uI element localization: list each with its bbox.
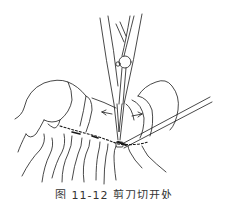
forceps bbox=[100, 14, 142, 140]
surgical-illustration bbox=[0, 0, 228, 199]
arrow-left-icon bbox=[102, 110, 112, 115]
hanging-strands bbox=[18, 134, 166, 184]
figure-caption: 图 11-12 剪刀切开处 bbox=[0, 188, 228, 199]
caption-text: 图 11-12 剪刀切开处 bbox=[55, 188, 173, 199]
right-segment bbox=[126, 81, 178, 138]
left-segment bbox=[15, 80, 116, 137]
probe bbox=[116, 97, 212, 148]
